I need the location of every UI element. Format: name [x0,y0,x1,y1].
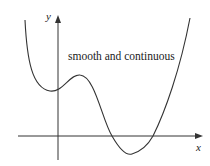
x-axis-arrow-icon [195,133,203,139]
annotation-text: smooth and continuous [68,50,175,62]
y-axis-arrow-icon [55,15,61,23]
graph: y x smooth and continuous [0,0,210,166]
x-axis-label: x [195,141,201,153]
y-axis-label: y [45,10,51,22]
function-curve [25,18,190,154]
